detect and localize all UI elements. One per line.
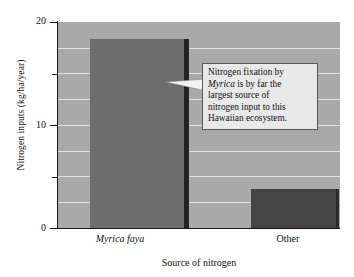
nitrogen-fixation-callout: Nitrogen fixation by Myrica is by far th… <box>202 63 318 130</box>
y-tick-5 <box>52 177 58 178</box>
callout-line-4: nitrogen input to this <box>208 102 312 114</box>
callout-line-2-rest: is by far the <box>235 79 281 89</box>
y-tick-label-0: 0 <box>6 222 46 233</box>
callout-species-name: Myrica <box>208 79 235 89</box>
bar-other <box>251 189 339 228</box>
bar-myrica-faya <box>90 39 189 228</box>
callout-line-5: Hawaiian ecosystem. <box>208 113 312 125</box>
y-tick-20 <box>50 22 58 23</box>
callout-pointer-line <box>166 78 206 100</box>
x-axis-title: Source of nitrogen <box>58 257 340 268</box>
y-axis-title: Nitrogen inputs (kg/ha/year) <box>16 20 26 210</box>
y-tick-15 <box>52 74 58 75</box>
y-tick-10 <box>50 125 58 126</box>
callout-line-1: Nitrogen fixation by <box>208 67 312 79</box>
callout-line-3: largest source of <box>208 90 312 102</box>
x-tick-label-myrica-faya: Myrica faya <box>60 233 180 244</box>
y-tick-label-10: 10 <box>6 119 46 130</box>
y-tick-0 <box>50 228 58 229</box>
x-axis-line <box>57 228 340 229</box>
y-tick-label-20: 20 <box>6 15 46 26</box>
callout-line-2: Myrica is by far the <box>208 79 312 91</box>
x-tick-label-other: Other <box>228 233 348 244</box>
nitrogen-inputs-bar-chart: Nitrogen inputs (kg/ha/year) 20 10 0 Myr… <box>0 0 354 277</box>
